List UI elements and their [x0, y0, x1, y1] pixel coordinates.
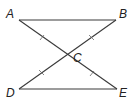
label-C: C	[73, 51, 82, 65]
label-B: B	[119, 7, 127, 21]
label-D: D	[6, 86, 15, 98]
label-E: E	[119, 86, 128, 98]
geometry-diagram: A B C D E	[0, 0, 136, 98]
label-A: A	[5, 7, 14, 21]
